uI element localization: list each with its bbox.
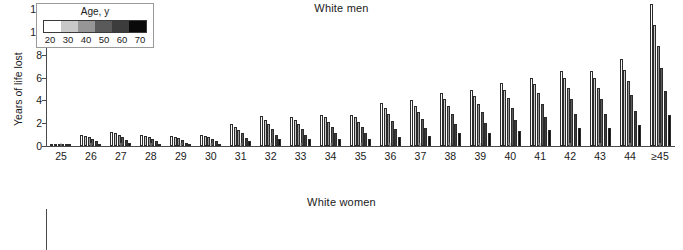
bar-35-age30 xyxy=(354,117,357,146)
bar-29-age70 xyxy=(188,144,191,146)
x-tick-36: 36 xyxy=(385,150,397,162)
bar-34-age60 xyxy=(334,133,337,146)
bar-33-age70 xyxy=(308,139,311,146)
bar-27-age30 xyxy=(114,133,117,146)
bar-39-age20 xyxy=(470,90,473,146)
bar-42-age30 xyxy=(563,78,566,147)
bar-39-age70 xyxy=(488,133,491,146)
bar-group-33 xyxy=(286,9,316,146)
bar-40-age40 xyxy=(507,98,510,146)
x-tick-mark-34 xyxy=(330,143,331,146)
bar-group-37 xyxy=(405,9,435,146)
x-tick-34: 34 xyxy=(325,150,337,162)
bar-36-age50 xyxy=(391,121,394,146)
bar-29-age60 xyxy=(185,143,188,146)
bar-41-age70 xyxy=(548,130,551,146)
bar-26-age20 xyxy=(80,135,83,146)
bar-25-age70 xyxy=(68,144,71,146)
bar-26-age50 xyxy=(91,139,94,146)
bar-30-age70 xyxy=(218,144,221,146)
bar-42-age40 xyxy=(567,88,570,146)
x-tick-43: 43 xyxy=(594,150,606,162)
bar-30-age50 xyxy=(211,139,214,146)
bar-≥45-age20 xyxy=(650,4,653,146)
bar-42-age60 xyxy=(574,114,577,146)
bar-41-age40 xyxy=(537,93,540,146)
bar-43-age60 xyxy=(604,114,607,146)
bar-32-age20 xyxy=(260,116,263,146)
x-tick-26: 26 xyxy=(85,150,97,162)
bar-44-age40 xyxy=(627,81,630,146)
bar-group-30 xyxy=(196,9,226,146)
x-tick-32: 32 xyxy=(265,150,277,162)
x-tick-mark-35 xyxy=(360,143,361,146)
bar-38-age30 xyxy=(443,99,446,146)
bar-36-age20 xyxy=(380,103,383,146)
legend-label-70: 70 xyxy=(131,34,149,45)
panel-white-women: White women Years of life lost 1012 xyxy=(0,182,683,250)
bar-27-age60 xyxy=(125,140,128,146)
figure-root: White men Years of life lost 02468101225… xyxy=(0,0,683,250)
x-tick-mark-44 xyxy=(630,143,631,146)
legend-swatch-30 xyxy=(61,21,78,32)
legend-labels: 203040506070 xyxy=(41,34,149,45)
bar-36-age30 xyxy=(384,108,387,146)
bar-group-44 xyxy=(615,9,645,146)
bar-37-age70 xyxy=(428,136,431,146)
x-tick-30: 30 xyxy=(205,150,217,162)
x-tick-29: 29 xyxy=(175,150,187,162)
x-tick-31: 31 xyxy=(235,150,247,162)
bar-26-age30 xyxy=(84,136,87,146)
x-tick-mark-33 xyxy=(300,143,301,146)
bar-31-age30 xyxy=(234,127,237,146)
x-tick-40: 40 xyxy=(504,150,516,162)
bar-43-age50 xyxy=(600,99,603,146)
x-tick-mark-38 xyxy=(450,143,451,146)
x-tick-mark-42 xyxy=(570,143,571,146)
bar-40-age50 xyxy=(511,108,514,146)
bar-40-age60 xyxy=(514,120,517,146)
bar-30-age60 xyxy=(215,141,218,146)
legend-swatch-20 xyxy=(44,21,61,32)
legend-label-50: 50 xyxy=(95,34,113,45)
bar-26-age70 xyxy=(98,144,101,146)
x-tick-27: 27 xyxy=(115,150,127,162)
bar-group-29 xyxy=(166,9,196,146)
bar-group-38 xyxy=(435,9,465,146)
bar-35-age70 xyxy=(368,139,371,146)
bar-≥45-age50 xyxy=(660,68,663,146)
x-tick-33: 33 xyxy=(295,150,307,162)
legend-label-30: 30 xyxy=(59,34,77,45)
bar-28-age70 xyxy=(158,144,161,146)
x-tick-mark-25 xyxy=(60,143,61,146)
bar-34-age30 xyxy=(324,117,327,146)
bar-38-age50 xyxy=(451,114,454,146)
bar-43-age20 xyxy=(590,71,593,146)
bar-41-age30 xyxy=(533,84,536,146)
bar-32-age30 xyxy=(264,120,267,146)
x-tick-35: 35 xyxy=(355,150,367,162)
bar-group-41 xyxy=(525,9,555,146)
x-tick-mark-37 xyxy=(420,143,421,146)
bar-25-age50 xyxy=(61,144,64,146)
x-tick-mark-≥45 xyxy=(660,143,661,146)
bar-33-age60 xyxy=(304,135,307,146)
x-tick-mark-40 xyxy=(510,143,511,146)
legend-swatch-70 xyxy=(129,21,146,32)
bar-31-age70 xyxy=(248,141,251,146)
legend-label-20: 20 xyxy=(41,34,59,45)
y-axis-label-men: Years of life lost xyxy=(12,52,24,126)
bar-41-age60 xyxy=(544,117,547,146)
x-tick-mark-43 xyxy=(600,143,601,146)
bar-38-age70 xyxy=(458,133,461,146)
bar-36-age60 xyxy=(394,129,397,146)
bar-38-age60 xyxy=(454,124,457,146)
bar-26-age60 xyxy=(95,141,98,146)
bar-group-42 xyxy=(555,9,585,146)
x-tick-mark-28 xyxy=(150,143,151,146)
bar-≥45-age70 xyxy=(668,115,671,146)
bar-39-age40 xyxy=(477,104,480,146)
bar-32-age50 xyxy=(271,129,274,146)
bar-34-age20 xyxy=(320,115,323,146)
bar-43-age40 xyxy=(597,88,600,146)
